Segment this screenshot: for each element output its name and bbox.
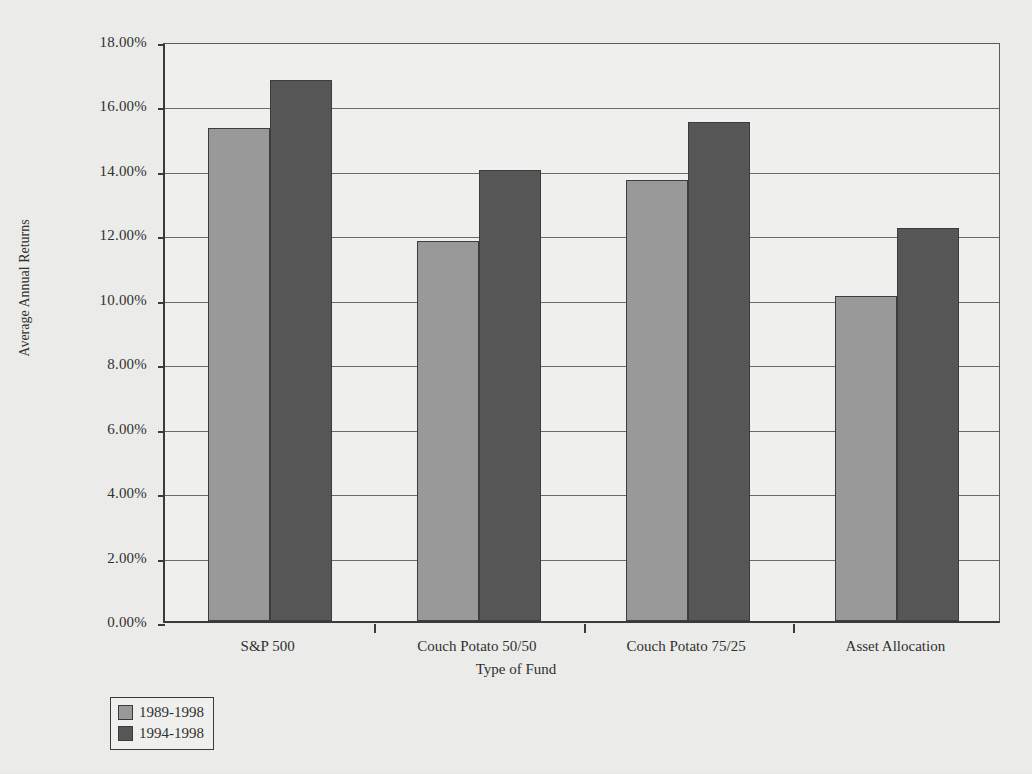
- y-axis-tick: [158, 302, 165, 304]
- x-axis-category-label: Couch Potato 75/25: [582, 638, 791, 655]
- y-axis-tick: [158, 237, 165, 239]
- y-axis-tick-label: 8.00%: [0, 357, 147, 372]
- x-axis-tick: [584, 624, 586, 633]
- legend-item-label: 1994-1998: [139, 726, 204, 741]
- y-axis-tick: [158, 495, 165, 497]
- y-axis-tick-label: 4.00%: [0, 486, 147, 501]
- y-axis-tick: [158, 431, 165, 433]
- legend-item: 1989-1998: [118, 702, 204, 723]
- bar: [688, 122, 750, 621]
- plot-area: [163, 43, 1000, 623]
- legend-item: 1994-1998: [118, 723, 204, 744]
- x-axis-category-label: Asset Allocation: [791, 638, 1000, 655]
- bar: [835, 296, 897, 621]
- y-axis-tick-label: 0.00%: [0, 615, 147, 630]
- y-axis-tick: [158, 366, 165, 368]
- legend-swatch-icon: [118, 726, 133, 741]
- y-axis-tick-label: 12.00%: [0, 228, 147, 243]
- y-axis-tick-label: 14.00%: [0, 164, 147, 179]
- y-axis-tick: [158, 560, 165, 562]
- y-axis-tick: [158, 173, 165, 175]
- legend: 1989-1998 1994-1998: [110, 697, 214, 750]
- x-axis-category-label: S&P 500: [163, 638, 372, 655]
- bar: [270, 80, 332, 621]
- bar: [479, 170, 541, 621]
- bar: [208, 128, 270, 621]
- x-axis-tick: [793, 624, 795, 633]
- y-axis-tick: [158, 624, 165, 626]
- bar: [417, 241, 479, 621]
- bar-chart: Average Annual Returns 18.00%16.00%14.00…: [0, 0, 1032, 774]
- y-axis-tick-label: 16.00%: [0, 99, 147, 114]
- bar: [626, 180, 688, 621]
- y-axis-tick-label: 18.00%: [0, 35, 147, 50]
- x-axis-title: Type of Fund: [0, 661, 1032, 678]
- legend-swatch-icon: [118, 705, 133, 720]
- legend-item-label: 1989-1998: [139, 705, 204, 720]
- y-axis-tick: [158, 44, 165, 46]
- x-axis-tick: [374, 624, 376, 633]
- y-axis-tick-label: 2.00%: [0, 551, 147, 566]
- x-axis-category-label: Couch Potato 50/50: [372, 638, 581, 655]
- y-axis-tick-label: 10.00%: [0, 293, 147, 308]
- y-axis-tick: [158, 108, 165, 110]
- bar: [897, 228, 959, 621]
- y-axis-tick-label: 6.00%: [0, 422, 147, 437]
